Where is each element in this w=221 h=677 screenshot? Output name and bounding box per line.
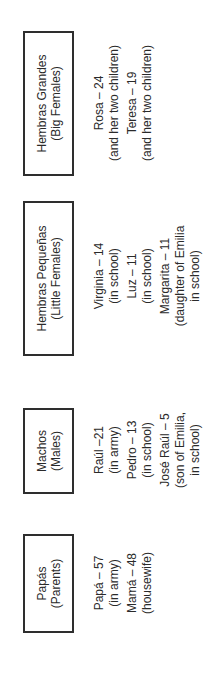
member-entry: Luz – 11 (in school) [125, 216, 155, 336]
member-list: Raúl –21 (in army) Pedro – 13 (in school… [92, 400, 206, 500]
member-note: (in school) [107, 216, 122, 336]
member-note-continued: in school) [188, 216, 203, 336]
member-name: Raúl –21 [92, 400, 107, 500]
group-parents: Papás (Parents) Papá – 57 (in army) Mamá… [0, 533, 221, 633]
member-name: Luz – 11 [125, 216, 140, 336]
member-list: Rosa – 24 (and her two children) Teresa … [92, 35, 158, 171]
member-entry: Mamá – 48 (housewife) [125, 533, 155, 633]
member-entry: Teresa – 19 (and her two children) [125, 35, 155, 171]
member-note: (housewife) [140, 533, 155, 633]
member-list: Papá – 57 (in army) Mamá – 48 (housewife… [92, 533, 158, 633]
member-name: Papá – 57 [92, 533, 107, 633]
household-diagram: Papás (Parents) Papá – 57 (in army) Mamá… [0, 0, 221, 677]
category-subtitle: (Big Females) [49, 66, 63, 141]
category-box-parents: Papás (Parents) [23, 534, 74, 633]
group-males: Machos (Males) Raúl –21 (in army) Pedro … [0, 394, 221, 494]
member-name: Margarita – 11 [158, 216, 173, 336]
member-name: Pedro – 13 [125, 400, 140, 500]
member-name: Teresa – 19 [125, 35, 140, 171]
category-subtitle: (Males) [49, 431, 63, 471]
category-box-males: Machos (Males) [23, 408, 74, 494]
category-title: Hembras Pequeñas [35, 225, 49, 331]
member-entry: Virginia – 14 (in school) [92, 216, 122, 336]
category-box-big-females: Hembras Grandes (Big Females) [23, 31, 74, 176]
member-entry: Margarita – 11 (daughter of Emilia in sc… [158, 216, 203, 336]
member-name: Virginia – 14 [92, 216, 107, 336]
member-note: (son of Emilia, [173, 400, 188, 500]
category-subtitle: (Parents) [49, 559, 63, 608]
member-note-continued: in school) [188, 400, 203, 500]
category-subtitle: (Little Females) [49, 237, 63, 320]
member-name: Rosa – 24 [92, 35, 107, 171]
category-title: Machos [35, 430, 49, 472]
member-entry: Pedro – 13 (in school) [125, 400, 155, 500]
category-box-little-females: Hembras Pequeñas (Little Females) [23, 201, 74, 356]
member-note: (in school) [140, 400, 155, 500]
member-note: (daughter of Emilia [173, 216, 188, 336]
member-note: (in army) [107, 533, 122, 633]
member-entry: Raúl –21 (in army) [92, 400, 122, 500]
member-entry: Papá – 57 (in army) [92, 533, 122, 633]
member-note: (in school) [140, 216, 155, 336]
category-title: Papás [35, 566, 49, 600]
member-name: José Raúl – 5 [158, 400, 173, 500]
group-big-females: Hembras Grandes (Big Females) Rosa – 24 … [0, 30, 221, 176]
member-list: Virginia – 14 (in school) Luz – 11 (in s… [92, 216, 206, 336]
member-note: (and her two children) [107, 35, 122, 171]
member-note: (and her two children) [140, 35, 155, 171]
group-little-females: Hembras Pequeñas (Little Females) Virgin… [0, 200, 221, 356]
member-entry: Rosa – 24 (and her two children) [92, 35, 122, 171]
member-note: (in army) [107, 400, 122, 500]
member-entry: José Raúl – 5 (son of Emilia, in school) [158, 400, 203, 500]
member-name: Mamá – 48 [125, 533, 140, 633]
category-title: Hembras Grandes [35, 54, 49, 152]
